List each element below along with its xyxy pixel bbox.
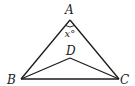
angle-arc-a (66, 26, 75, 28)
segment-ab (21, 20, 70, 79)
point-label-a: A (64, 3, 74, 17)
segment-ac (70, 20, 119, 79)
point-label-d: D (65, 44, 76, 58)
point-label-c: C (120, 73, 129, 86)
segment-bd (21, 58, 70, 79)
angle-label-x: x° (65, 28, 76, 39)
segment-dc (70, 58, 119, 79)
geometry-diagram: A x° D B C (0, 0, 135, 86)
point-label-b: B (6, 73, 16, 86)
